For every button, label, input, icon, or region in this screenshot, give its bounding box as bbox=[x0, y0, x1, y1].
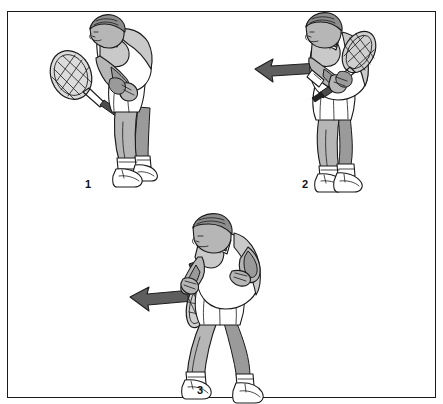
panel-2: 2 bbox=[246, 12, 406, 202]
panel-3-illustration bbox=[120, 217, 320, 404]
panel-1-number: 1 bbox=[85, 179, 91, 190]
panel-1-illustration bbox=[38, 12, 188, 202]
panel-3: 3 bbox=[120, 217, 310, 402]
panel-2-illustration bbox=[246, 12, 416, 207]
panel-3-number: 3 bbox=[197, 385, 203, 396]
panel-1: 1 bbox=[38, 12, 178, 197]
illustration-frame: 1 bbox=[7, 11, 436, 398]
panel-2-number: 2 bbox=[302, 179, 308, 190]
